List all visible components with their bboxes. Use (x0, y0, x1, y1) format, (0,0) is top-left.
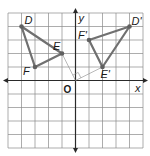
vertex-label: D' (132, 15, 143, 27)
y-axis-arrow-down-icon (73, 148, 78, 153)
vertex-point (60, 51, 65, 56)
y-axis-label: y (78, 12, 86, 24)
vertex-label: D (25, 14, 33, 26)
vertex-point (33, 65, 38, 70)
x-axis-arrow-icon (143, 78, 148, 83)
x-axis-label: x (134, 82, 141, 94)
vertex-label: E' (101, 68, 111, 80)
vertex-point (19, 24, 24, 29)
triangle-DEF-image (89, 27, 130, 68)
origin-label: O (64, 84, 72, 95)
vertex-label: F' (78, 29, 88, 41)
x-axis-arrow-left-icon (3, 78, 8, 83)
y-axis-arrow-up-icon (73, 8, 78, 13)
vertex-point (87, 38, 92, 43)
vertex-label: E (53, 40, 61, 52)
coordinate-plane: x y O DEFD'E'F' (0, 0, 150, 156)
